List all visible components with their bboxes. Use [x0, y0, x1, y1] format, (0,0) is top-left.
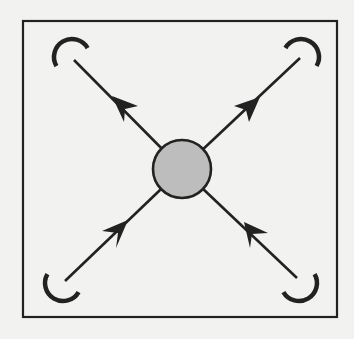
arrowhead-icon — [112, 96, 138, 122]
cup-arc-icon — [54, 39, 88, 66]
arrowhead-icon — [234, 97, 260, 122]
cup-arc-icon — [45, 274, 79, 301]
diagram-canvas — [0, 0, 354, 339]
arrowhead-icon — [244, 222, 268, 248]
cup-arc-icon — [283, 274, 317, 301]
center-node — [153, 140, 211, 198]
cup-arc-icon — [285, 39, 319, 66]
